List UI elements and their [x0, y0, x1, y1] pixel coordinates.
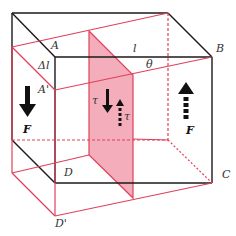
- label-tau-left: τ: [92, 95, 98, 106]
- label-delta-l: Δl: [38, 60, 49, 71]
- label-theta: θ: [146, 59, 153, 70]
- label-D: D: [64, 167, 73, 178]
- shear-diagram: A Δl A' l θ B τ τ F F D C D': [0, 0, 236, 236]
- force-arrow-left: [19, 86, 36, 117]
- label-C: C: [222, 169, 230, 180]
- label-B: B: [216, 43, 224, 54]
- force-arrow-right: [178, 82, 194, 119]
- label-D-prime: D': [55, 218, 67, 229]
- label-l: l: [133, 43, 137, 54]
- label-F-right: F: [186, 125, 194, 136]
- label-F-left: F: [23, 124, 31, 135]
- label-A-prime: A': [38, 84, 49, 95]
- diagram-canvas: [0, 0, 236, 236]
- label-tau-right: τ: [124, 111, 130, 122]
- label-A: A: [51, 40, 59, 51]
